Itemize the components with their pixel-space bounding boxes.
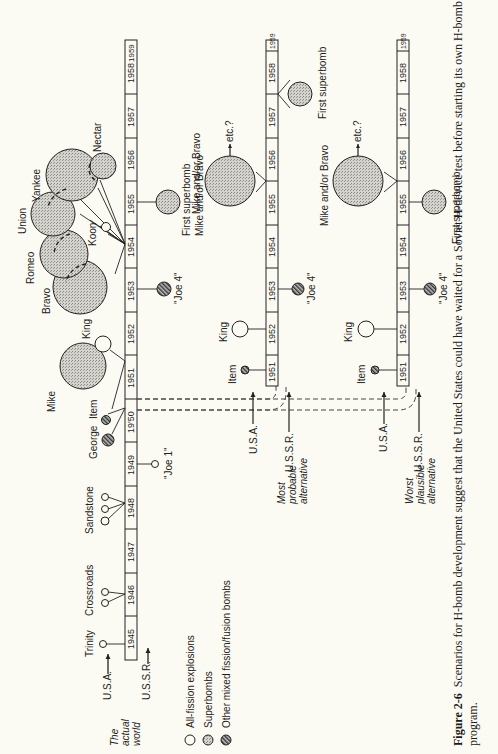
svg-text:"Joe 4": "Joe 4" (306, 272, 317, 304)
svg-text:1952: 1952 (398, 324, 408, 344)
first-superbomb-marker-icon (422, 190, 446, 214)
joe1-marker-icon (152, 461, 159, 468)
svg-text:1955: 1955 (267, 194, 277, 214)
svg-text:Bravo: Bravo (41, 287, 52, 314)
first-superbomb-marker-icon (288, 82, 312, 106)
figure-page: The actual world U.S.A. U.S.S.R. 1945194… (0, 0, 498, 754)
sandstone-marker-icon (101, 517, 109, 525)
svg-text:Yankee: Yankee (31, 168, 42, 202)
svg-text:Crossroads: Crossroads (84, 565, 95, 616)
mike-or-bravo-marker-icon (205, 156, 255, 206)
joe4-marker-icon (292, 283, 304, 295)
item-marker-icon (102, 416, 111, 425)
svg-text:Most: Most (276, 481, 287, 504)
svg-text:First superbomb: First superbomb (317, 46, 328, 119)
svg-text:1959: 1959 (269, 33, 276, 49)
usa-label: U.S.A. (102, 671, 113, 700)
svg-text:program.: program. (466, 702, 480, 746)
svg-text:Item: Item (88, 400, 99, 419)
svg-text:1956: 1956 (126, 150, 136, 170)
svg-text:Item: Item (356, 365, 367, 384)
timeline-axis (125, 40, 137, 660)
svg-text:1948: 1948 (126, 498, 136, 518)
svg-text:19'50: 19'50 (126, 411, 136, 433)
svg-text:King: King (218, 322, 229, 342)
koon-marker-icon (102, 223, 111, 232)
h-bomb-scenarios-diagram: The actual world U.S.A. U.S.S.R. 1945194… (0, 0, 498, 754)
svg-text:1954: 1954 (126, 237, 136, 257)
svg-text:alternative: alternative (426, 457, 437, 504)
svg-text:Item: Item (227, 365, 238, 384)
svg-text:Sandstone: Sandstone (84, 486, 95, 534)
mike-or-bravo-marker-icon (333, 156, 383, 206)
svg-text:1958: 1958 (398, 63, 408, 83)
etc-note: etc.? (352, 120, 363, 142)
svg-text:alternative: alternative (298, 457, 309, 504)
svg-text:Romeo: Romeo (25, 251, 36, 284)
king-marker-icon (95, 336, 111, 352)
svg-text:Koon: Koon (87, 223, 98, 246)
svg-text:Worst: Worst (404, 477, 415, 504)
svg-text:"Joe 4": "Joe 4" (173, 272, 184, 304)
svg-text:1958: 1958 (126, 63, 136, 83)
first-superbomb-marker-icon (156, 190, 180, 214)
crossroads-marker-icon (102, 600, 109, 607)
svg-text:"Joe 4": "Joe 4" (438, 272, 449, 304)
superbomb-legend-icon (203, 735, 213, 745)
svg-text:1955: 1955 (126, 194, 136, 214)
usa-label: U.S.A. (248, 425, 259, 454)
ussr-label: U.S.S.R. (413, 433, 424, 472)
svg-text:Nectar: Nectar (92, 122, 103, 152)
svg-text:Mike and/or Bravo: Mike and/or Bravo (191, 132, 202, 214)
svg-text:1953: 1953 (126, 281, 136, 301)
item-marker-icon (241, 366, 249, 374)
row-actual-world: The actual world U.S.A. U.S.S.R. 1945194… (17, 40, 205, 746)
row-title-line2: actual (120, 719, 131, 746)
svg-text:1957: 1957 (126, 107, 136, 127)
svg-text:1945: 1945 (126, 629, 136, 649)
row-title: The (109, 728, 120, 746)
svg-text:"Joe 1": "Joe 1" (163, 447, 174, 479)
svg-text:1956: 1956 (398, 150, 408, 170)
svg-text:1958: 1958 (267, 63, 277, 83)
ussr-label: U.S.S.R. (284, 433, 295, 472)
scenario-branch-lines (137, 386, 416, 410)
svg-text:1955: 1955 (398, 194, 408, 214)
svg-text:1952: 1952 (126, 324, 136, 344)
svg-text:All-fission explosions: All-fission explosions (185, 635, 196, 728)
svg-text:George: George (88, 425, 99, 459)
row-most-probable: Most probable alternative U.S.A. U.S.S.R… (191, 33, 328, 505)
item-marker-icon (371, 366, 379, 374)
svg-text:1957: 1957 (398, 107, 408, 127)
all-fission-legend-icon (185, 735, 195, 745)
svg-text:1956: 1956 (267, 150, 277, 170)
svg-text:King: King (343, 322, 354, 342)
mixed-bomb-legend-icon (221, 735, 231, 745)
joe4-marker-icon (424, 283, 436, 295)
svg-text:Other mixed fission/fusion bom: Other mixed fission/fusion bombs (221, 580, 232, 728)
svg-text:1954: 1954 (267, 237, 277, 257)
ussr-label: U.S.S.R. (141, 661, 152, 700)
svg-text:1951: 1951 (126, 368, 136, 388)
svg-text:Union: Union (17, 208, 28, 234)
usa-label: U.S.A. (378, 423, 389, 452)
svg-text:1953: 1953 (267, 281, 277, 301)
svg-text:1949: 1949 (126, 455, 136, 475)
svg-text:1959: 1959 (127, 44, 136, 62)
nectar-marker-icon (90, 153, 116, 179)
svg-text:1959: 1959 (400, 33, 407, 49)
row-title-line3: world (131, 722, 142, 746)
george-marker-icon (102, 434, 114, 446)
etc-note: etc.? (224, 120, 235, 142)
joe4-marker-icon (157, 282, 171, 296)
svg-text:1954: 1954 (398, 237, 408, 257)
king-marker-icon (232, 321, 248, 337)
legend: All-fission explosions Superbombs Other … (185, 580, 232, 745)
row-worst-plausible: Worst plausible alternative U.S.A. U.S.S… (319, 33, 462, 505)
king-marker-icon (358, 321, 374, 337)
svg-text:1951: 1951 (398, 362, 408, 382)
svg-text:1951: 1951 (267, 362, 277, 382)
figure-caption: Figure 2-6Scenarios for H-bomb developme… (451, 1, 480, 746)
svg-text:Mike and/or Bravo: Mike and/or Bravo (319, 144, 330, 226)
svg-text:Superbombs: Superbombs (203, 671, 214, 728)
